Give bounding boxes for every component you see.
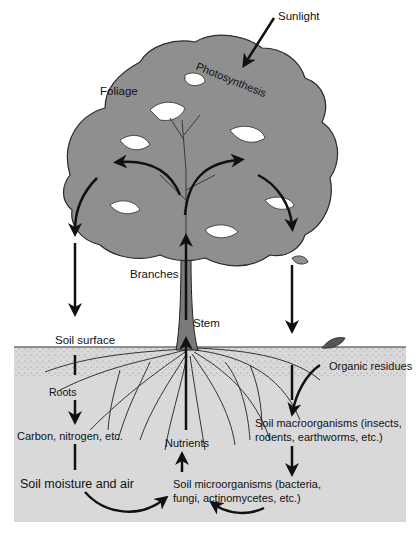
label-stem: Stem [193, 317, 220, 330]
nutrient-cycle-diagram: Sunlight Photosynthesis Foliage Branches… [0, 0, 419, 535]
falling-leaf [292, 256, 308, 264]
label-soil-surface: Soil surface [55, 334, 115, 347]
label-microorganisms-1: Soil microorganisms (bacteria, [173, 478, 321, 491]
diagram-artwork [0, 0, 419, 535]
label-roots: Roots [49, 386, 76, 399]
label-soil-moisture-air: Soil moisture and air [20, 478, 134, 491]
label-nutrients: Nutrients [165, 437, 209, 450]
label-macroorganisms-1: Soil macroorganisms (insects, [255, 417, 402, 430]
label-organic-residues: Organic residues [329, 360, 412, 373]
label-sunlight: Sunlight [278, 10, 320, 23]
label-carbon-nitrogen: Carbon, nitrogen, etc. [17, 430, 123, 443]
label-macroorganisms-2: rodents, earthworms, etc.) [255, 431, 383, 444]
label-branches: Branches [130, 268, 179, 281]
label-foliage: Foliage [100, 85, 138, 98]
label-microorganisms-2: fungi, actinomycetes, etc.) [173, 492, 301, 505]
